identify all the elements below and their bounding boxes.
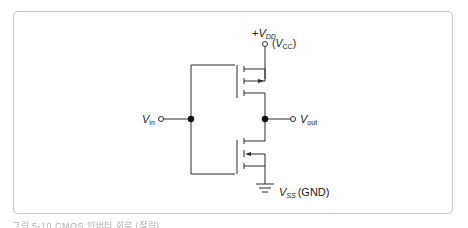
nmos-arrow-icon xyxy=(245,152,251,156)
figure-caption: 그림 5-10 CMOS 인버터 회로 (잘림) xyxy=(12,219,160,228)
vin-terminal xyxy=(159,117,164,122)
gate-wire xyxy=(191,65,235,174)
vdd-terminal xyxy=(263,42,268,47)
vin-label: Vin xyxy=(142,113,155,126)
output-junction xyxy=(262,116,268,122)
cmos-inverter-diagram: +VDD (VCC) Vin Vout VSS(GND) xyxy=(0,0,468,228)
input-junction xyxy=(188,116,194,122)
vcc-label: (VCC) xyxy=(272,37,296,50)
pmos-arrow-icon xyxy=(258,79,264,83)
vout-terminal xyxy=(291,117,296,122)
vss-label: VSS(GND) xyxy=(279,186,329,199)
vout-label: Vout xyxy=(300,113,317,126)
